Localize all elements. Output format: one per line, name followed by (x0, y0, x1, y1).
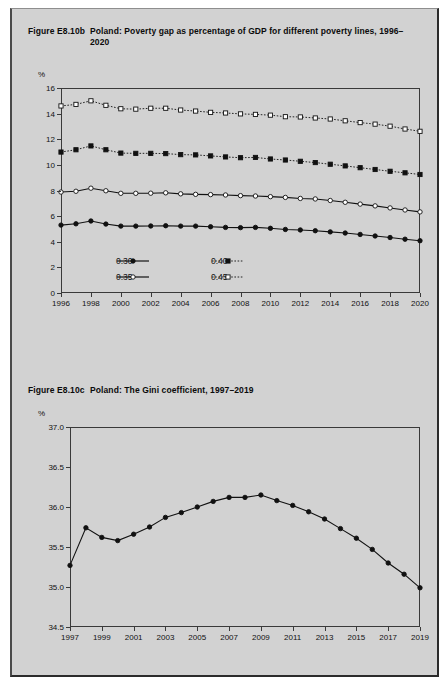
y-axis-tick-mark (57, 139, 61, 140)
x-axis-tick-mark (300, 293, 301, 297)
legend-item-0-35: 0.35 (116, 272, 133, 282)
data-point (253, 155, 257, 159)
data-point (283, 115, 287, 119)
data-point (164, 191, 168, 195)
x-axis-tick-label: 2003 (157, 633, 175, 642)
data-point (223, 225, 227, 229)
data-point (418, 239, 422, 243)
x-axis-tick-mark (211, 293, 212, 297)
data-point (268, 157, 272, 161)
data-point (343, 119, 347, 123)
data-point (149, 224, 153, 228)
series-line (61, 221, 420, 241)
data-point (298, 228, 302, 232)
y-axis-tick-label: 0 (15, 289, 55, 298)
data-point (343, 200, 347, 204)
data-point (208, 154, 212, 158)
x-axis-tick-label: 2000 (112, 299, 130, 308)
data-point (298, 115, 302, 119)
data-point (116, 538, 120, 542)
figure-c-caption: Poland: The Gini coefficient, 1997–2019 (90, 385, 420, 396)
y-axis-tick-label: 10 (15, 160, 55, 169)
data-point (74, 102, 78, 106)
y-axis-tick-label: 16 (15, 84, 55, 93)
data-point (388, 206, 392, 210)
data-point (149, 106, 153, 110)
data-point (373, 167, 377, 171)
data-point (164, 106, 168, 110)
data-point (89, 219, 93, 223)
data-point (147, 525, 151, 529)
x-axis-tick-mark (420, 293, 421, 297)
x-axis-tick-label: 2014 (321, 299, 339, 308)
data-point (402, 572, 406, 576)
x-axis-tick-label: 2004 (172, 299, 190, 308)
data-point (119, 151, 123, 155)
x-axis-tick-label: 2012 (291, 299, 309, 308)
data-point (223, 155, 227, 159)
x-axis-tick-mark (121, 293, 122, 297)
data-point (104, 222, 108, 226)
x-axis-tick-mark (330, 293, 331, 297)
figure-c-y-axis-unit: % (38, 409, 45, 418)
data-point (388, 124, 392, 128)
data-point (343, 231, 347, 235)
data-point (306, 510, 310, 514)
y-axis-tick-label: 36.5 (24, 463, 64, 472)
y-axis-tick-label: 36.0 (24, 503, 64, 512)
x-axis-tick-label: 2006 (202, 299, 220, 308)
legend-item-0-40: 0.40 (211, 256, 228, 266)
y-axis-tick-mark (57, 88, 61, 89)
data-point (59, 104, 63, 108)
data-point (178, 224, 182, 228)
data-point (343, 164, 347, 168)
y-axis-tick-label: 2 (15, 263, 55, 272)
data-point (74, 222, 78, 226)
data-point (131, 259, 135, 263)
x-axis-tick-mark (241, 293, 242, 297)
data-point (149, 191, 153, 195)
series-line (70, 495, 420, 588)
y-axis-tick-mark (57, 216, 61, 217)
data-point (208, 225, 212, 229)
data-point (179, 510, 183, 514)
figure-c-number: Figure E8.10c (28, 385, 90, 396)
data-point (164, 152, 168, 156)
data-point (403, 208, 407, 212)
data-point (89, 99, 93, 103)
x-axis-tick-mark (151, 293, 152, 297)
data-point (358, 232, 362, 236)
data-point (193, 192, 197, 196)
x-axis-tick-label: 2008 (232, 299, 250, 308)
data-point (275, 498, 279, 502)
data-point (59, 150, 63, 154)
x-axis-tick-mark (360, 293, 361, 297)
data-point (226, 275, 230, 279)
legend-marker-open-circle (116, 272, 150, 282)
y-axis-tick-mark (66, 427, 70, 428)
y-axis-tick-mark (57, 191, 61, 192)
data-point (243, 495, 247, 499)
x-axis-tick-mark (91, 293, 92, 297)
data-point (418, 586, 422, 590)
figure-c-plot-area: 34.535.035.536.036.537.0 199719992001200… (70, 427, 420, 627)
y-axis-tick-label: 35.5 (24, 543, 64, 552)
data-point (238, 225, 242, 229)
x-axis-tick-mark (70, 627, 71, 631)
y-axis-tick-label: 14 (15, 109, 55, 118)
data-point (74, 189, 78, 193)
y-axis-tick-mark (57, 165, 61, 166)
x-axis-tick-label: 1999 (93, 633, 111, 642)
data-point (354, 536, 358, 540)
legend-marker-open-square (211, 272, 245, 282)
x-axis-tick-label: 2019 (411, 633, 429, 642)
legend-item-0-30: 0.30 (116, 256, 133, 266)
data-point (418, 129, 422, 133)
data-point (131, 532, 135, 536)
figure-c-series-canvas (70, 427, 420, 627)
x-axis-tick-mark (197, 627, 198, 631)
data-point (163, 515, 167, 519)
data-point (418, 210, 422, 214)
x-axis-tick-mark (356, 627, 357, 631)
data-point (313, 116, 317, 120)
